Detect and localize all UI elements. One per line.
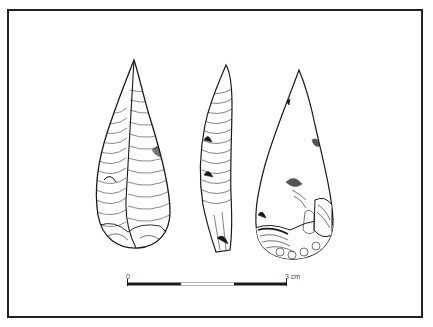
scale-end-label: 3 cm bbox=[285, 273, 300, 280]
scale-bar bbox=[127, 279, 287, 286]
handaxe-profile-view bbox=[201, 65, 234, 252]
handaxe-reverse-view bbox=[255, 70, 336, 265]
scale-start-label: 0 bbox=[126, 273, 130, 280]
handaxe-face-view bbox=[96, 60, 172, 248]
handaxe-illustration bbox=[0, 0, 433, 327]
